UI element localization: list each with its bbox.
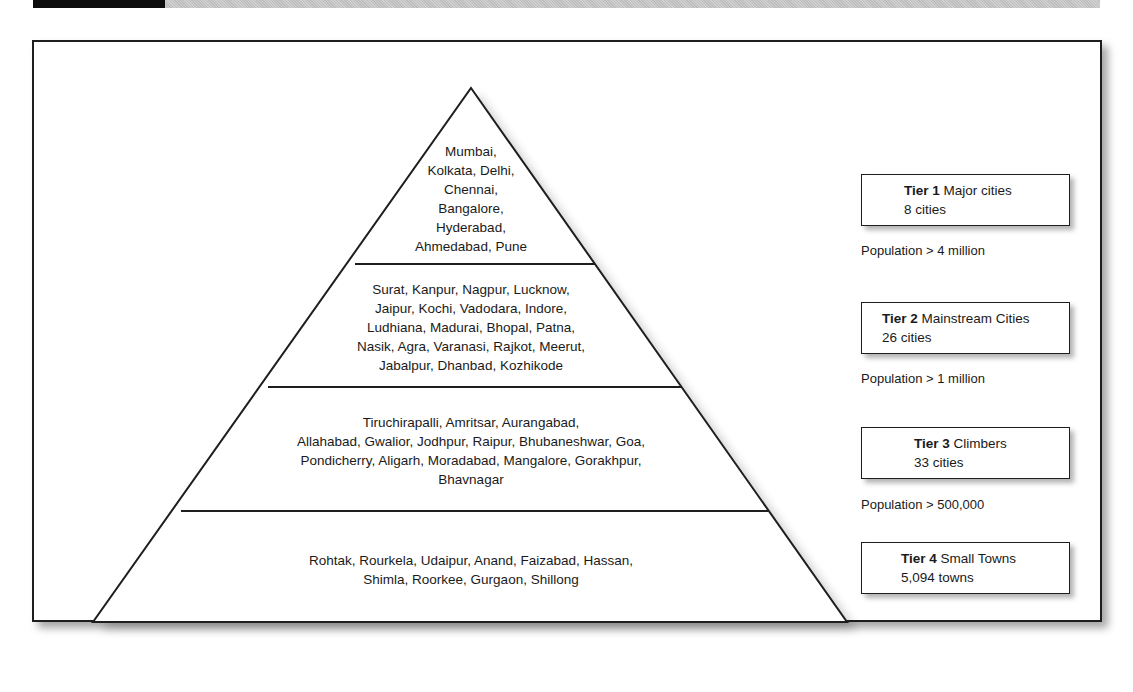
- tier-count: 5,094 towns: [901, 568, 1016, 587]
- tier-label: Tier 2: [882, 311, 918, 326]
- tier-count: 33 cities: [914, 453, 1007, 472]
- tier-name: Climbers: [954, 436, 1007, 451]
- tier-label: Tier 4: [901, 551, 937, 566]
- city-line: Allahabad, Gwalior, Jodhpur, Raipur, Bhu…: [251, 432, 691, 451]
- tier-2-population: Population > 1 million: [861, 371, 985, 386]
- tier-2-legend-box: Tier 2 Mainstream Cities 26 cities: [861, 302, 1070, 354]
- tier-4-legend-box: Tier 4 Small Towns 5,094 towns: [861, 542, 1070, 594]
- city-line: Pondicherry, Aligarh, Moradabad, Mangalo…: [251, 451, 691, 470]
- city-line: Kolkata, Delhi,: [371, 161, 571, 180]
- city-line: Shimla, Roorkee, Gurgaon, Shillong: [271, 570, 671, 589]
- city-line: Rohtak, Rourkela, Udaipur, Anand, Faizab…: [271, 551, 671, 570]
- tier-4-cities: Rohtak, Rourkela, Udaipur, Anand, Faizab…: [271, 551, 671, 589]
- tier-name: Major cities: [944, 183, 1012, 198]
- city-line: Tiruchirapalli, Amritsar, Aurangabad,: [251, 413, 691, 432]
- tier-3-legend-box: Tier 3 Climbers 33 cities: [861, 427, 1070, 479]
- city-line: Ludhiana, Madurai, Bhopal, Patna,: [311, 318, 631, 337]
- city-line: Ahmedabad, Pune: [371, 237, 571, 256]
- tier-name: Mainstream Cities: [922, 311, 1030, 326]
- tier-count: 26 cities: [882, 328, 1030, 347]
- tier-label: Tier 3: [914, 436, 950, 451]
- tier-2-cities: Surat, Kanpur, Nagpur, Lucknow, Jaipur, …: [311, 280, 631, 375]
- city-line: Nasik, Agra, Varanasi, Rajkot, Meerut,: [311, 337, 631, 356]
- city-line: Hyderabad,: [371, 218, 571, 237]
- city-line: Mumbai,: [371, 142, 571, 161]
- tier-label: Tier 1: [904, 183, 940, 198]
- city-line: Bangalore,: [371, 199, 571, 218]
- tier-1-cities: Mumbai, Kolkata, Delhi, Chennai, Bangalo…: [371, 142, 571, 256]
- city-line: Bhavnagar: [251, 470, 691, 489]
- city-line: Jaipur, Kochi, Vadodara, Indore,: [311, 299, 631, 318]
- tier-name: Small Towns: [941, 551, 1017, 566]
- tier-3-population: Population > 500,000: [861, 497, 984, 512]
- city-line: Chennai,: [371, 180, 571, 199]
- tier-1-population: Population > 4 million: [861, 243, 985, 258]
- city-line: Surat, Kanpur, Nagpur, Lucknow,: [311, 280, 631, 299]
- tier-1-legend-box: Tier 1 Major cities 8 cities: [861, 174, 1070, 226]
- city-line: Jabalpur, Dhanbad, Kozhikode: [311, 356, 631, 375]
- tier-3-cities: Tiruchirapalli, Amritsar, Aurangabad, Al…: [251, 413, 691, 489]
- tier-count: 8 cities: [904, 200, 1012, 219]
